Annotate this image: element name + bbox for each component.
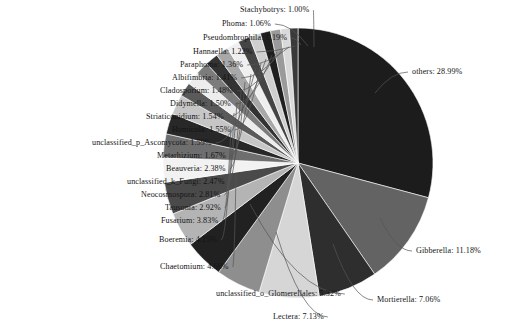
slice-label: Striaticonidium: 1.54% (146, 113, 224, 121)
slice-label: others: 28.99% (412, 68, 462, 76)
slice-label: unclassified_o_Glomerellales: 5.32% (216, 290, 341, 298)
slice-label: Metarhizium: 1.67% (157, 152, 226, 160)
slice-label: Humicola: 1.55% (172, 126, 231, 134)
slice-label: Gibberella: 11.18% (416, 247, 481, 255)
slice-label: Lectera: 7.13% (273, 313, 324, 321)
slice-label: Beauveria: 2.38% (166, 165, 226, 173)
slice-label: Phoma: 1.06% (222, 20, 271, 28)
slice-label: Didymella: 1.50% (170, 100, 231, 108)
slice-label: Hannaella: 1.22% (193, 48, 253, 56)
slice-label: Pseudombrophila: 1.19% (203, 34, 287, 42)
slice-label: Neocosmospora: 2.81% (141, 191, 220, 199)
slice-label: unclassified_p_Ascomycota: 1.59% (92, 139, 212, 147)
slice-label: Paraphoma: 1.36% (180, 61, 243, 69)
slice-label: Chaetomium: 4.66% (160, 263, 229, 271)
slice-label: Albifimbria: 1.41% (172, 74, 237, 82)
slice-label: Fusarium: 3.83% (161, 217, 218, 225)
slice-label: Mortierella: 7.06% (377, 296, 440, 304)
slice-label: unclassified_k_Fungi: 2.47% (127, 178, 225, 186)
slice-label: Boeremia: 4.15% (159, 236, 217, 244)
pie-chart-svg (0, 0, 510, 326)
pie-chart-figure: Stachybotrys: 1.00%Phoma: 1.06%Pseudombr… (0, 0, 510, 326)
slice-label: Stachybotrys: 1.00% (240, 6, 309, 14)
slice-label: Cladosporium: 1.48% (160, 87, 233, 95)
slice-label: Tausonia: 2.92% (165, 204, 221, 212)
